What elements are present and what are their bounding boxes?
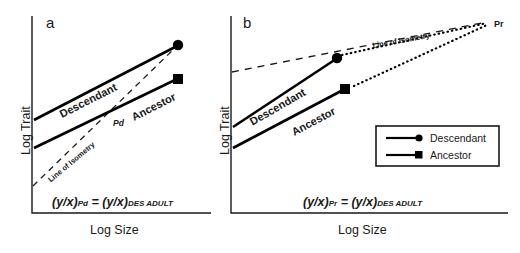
panel-a-axes bbox=[32, 16, 211, 213]
panel-a-point-label: Pd bbox=[113, 119, 124, 128]
panel-b-ancestor-square-marker bbox=[340, 84, 350, 94]
panel-b-equation: (y/x)Pr = (y/x)DES ADULT bbox=[303, 196, 422, 209]
panel-a-eq-equals: = bbox=[91, 195, 98, 209]
panel-b-eq-lead: (y/x) bbox=[303, 195, 329, 209]
panel-b-label: b bbox=[243, 15, 251, 30]
panel-a-eq-sub2: DES ADULT bbox=[128, 199, 173, 208]
panel-b-eq-equals: = bbox=[341, 195, 348, 209]
figure-canvas bbox=[0, 0, 520, 253]
panel-a-descendant-circle-marker bbox=[173, 40, 183, 50]
panel-a-x-axis-title: Log Size bbox=[90, 224, 139, 237]
allometry-figure: a Log Trait Log Size Descendant Ancestor… bbox=[0, 0, 520, 253]
panel-b-isometry-line bbox=[232, 22, 487, 72]
legend-square-marker bbox=[415, 151, 423, 159]
panel-a-ancestor-square-marker bbox=[173, 74, 183, 84]
panel-a-y-axis-title: Log Trait bbox=[20, 106, 33, 155]
panel-b-eq-sub2: DES ADULT bbox=[377, 199, 422, 208]
panel-a-label: a bbox=[46, 15, 54, 30]
panel-a-eq-sub1: Pd bbox=[78, 199, 88, 208]
panel-a-eq-lead: (y/x) bbox=[52, 195, 78, 209]
legend-item-descendant-label: Descendant bbox=[430, 133, 486, 144]
panel-b-point-label: Pr bbox=[494, 20, 504, 29]
panel-b-x-axis-title: Log Size bbox=[338, 224, 387, 237]
panel-b-y-axis-title: Log Trait bbox=[219, 106, 232, 155]
legend-circle-marker bbox=[415, 134, 422, 141]
panel-b-eq-sub1: Pr bbox=[329, 199, 337, 208]
panel-a-equation: (y/x)Pd = (y/x)DES ADULT bbox=[52, 196, 173, 209]
panel-a-graphics bbox=[32, 16, 211, 213]
panel-a-isometry-line bbox=[33, 45, 178, 186]
panel-a-eq-lead2: (y/x) bbox=[102, 195, 128, 209]
panel-b-descendant-circle-marker bbox=[332, 53, 342, 63]
panel-b-eq-lead2: (y/x) bbox=[351, 195, 377, 209]
legend-item-ancestor-label: Ancestor bbox=[430, 150, 471, 161]
